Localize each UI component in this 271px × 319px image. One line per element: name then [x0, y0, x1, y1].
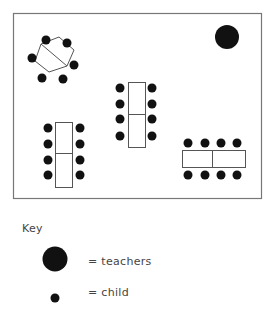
hexagon-table [28, 36, 79, 84]
right-table [183, 139, 246, 180]
key-title: Key [22, 222, 43, 235]
key-teacher-icon [43, 247, 68, 272]
classroom-diagram [0, 0, 271, 319]
bottom-left-table [44, 123, 85, 188]
key-child-icon [51, 294, 60, 303]
key-child-label: = child [88, 286, 129, 299]
center-table [116, 83, 157, 148]
key-teacher-label: = teachers [88, 255, 152, 268]
teacher-icon [215, 25, 239, 49]
